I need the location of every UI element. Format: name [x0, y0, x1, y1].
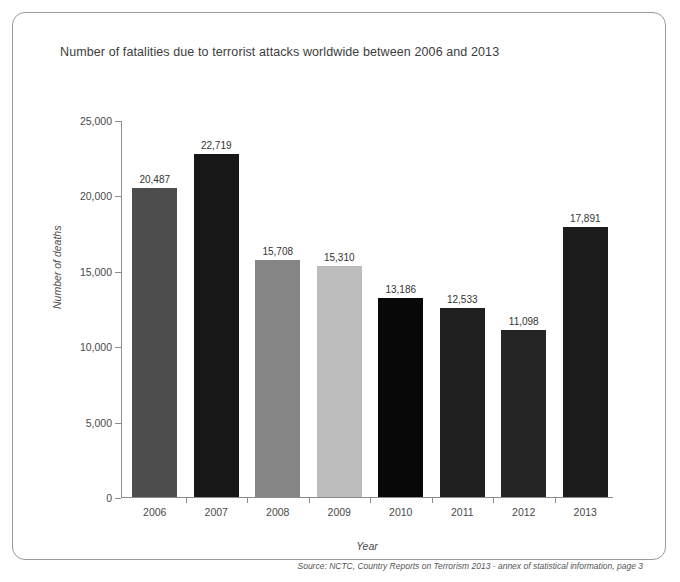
- y-tick-label: 15,000: [80, 266, 112, 278]
- x-tick-label: 2008: [247, 506, 308, 518]
- y-tick-mark: [115, 121, 121, 122]
- bar[interactable]: 20,487: [132, 188, 177, 497]
- bar-value-label: 11,098: [509, 316, 539, 327]
- bar-value-label: 20,487: [139, 174, 170, 185]
- y-tick-label: 0: [106, 492, 112, 504]
- x-tick-label: 2010: [370, 506, 431, 518]
- bar[interactable]: 11,098: [501, 330, 546, 497]
- bar-value-label: 22,719: [201, 140, 232, 151]
- x-axis-title: Year: [121, 540, 613, 552]
- y-tick-mark: [115, 347, 121, 348]
- x-tick-label: 2011: [432, 506, 493, 518]
- x-axis-line: [121, 497, 613, 498]
- bar[interactable]: 15,310: [317, 266, 362, 497]
- y-tick-label: 10,000: [80, 341, 112, 353]
- y-axis-line: [121, 121, 122, 498]
- x-tick-label: 2013: [555, 506, 616, 518]
- x-tick-label: 2009: [309, 506, 370, 518]
- x-tick-mark: [432, 498, 433, 503]
- bar[interactable]: 13,186: [378, 298, 423, 497]
- x-tick-mark: [493, 498, 494, 503]
- x-tick-mark: [555, 498, 556, 503]
- bar-value-label: 12,533: [447, 294, 478, 305]
- page-title: Number of fatalities due to terrorist at…: [60, 45, 499, 59]
- source-note: Source: NCTC, Country Reports on Terrori…: [297, 561, 643, 571]
- y-tick-label: 20,000: [80, 190, 112, 202]
- x-tick-label: 2006: [124, 506, 185, 518]
- bar-value-label: 15,708: [262, 246, 293, 257]
- bar[interactable]: 15,708: [255, 260, 300, 497]
- bar[interactable]: 17,891: [563, 227, 608, 497]
- y-tick-label: 5,000: [86, 417, 112, 429]
- bar-value-label: 17,891: [570, 213, 601, 224]
- bar[interactable]: 12,533: [440, 308, 485, 497]
- y-tick-mark: [115, 272, 121, 273]
- y-tick-label: 25,000: [80, 115, 112, 127]
- y-tick-mark: [115, 498, 121, 499]
- x-tick-mark: [370, 498, 371, 503]
- x-tick-label: 2007: [186, 506, 247, 518]
- y-tick-mark: [115, 196, 121, 197]
- bar-value-label: 13,186: [385, 284, 416, 295]
- y-tick-mark: [115, 423, 121, 424]
- chart-card: Number of fatalities due to terrorist at…: [12, 12, 666, 560]
- bar[interactable]: 22,719: [194, 154, 239, 497]
- x-tick-mark: [247, 498, 248, 503]
- y-axis-title: Number of deaths: [51, 226, 63, 309]
- x-tick-label: 2012: [493, 506, 554, 518]
- bar-value-label: 15,310: [324, 252, 355, 263]
- plot-area: 05,00010,00015,00020,00025,000 20,48722,…: [121, 121, 613, 498]
- x-tick-mark: [309, 498, 310, 503]
- x-tick-mark: [186, 498, 187, 503]
